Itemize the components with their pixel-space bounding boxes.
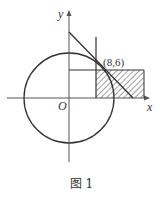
origin-label: O (58, 99, 67, 113)
y-axis-label: y (57, 7, 64, 21)
point-label: (8,6) (103, 56, 124, 69)
y-axis-arrow-icon (67, 10, 72, 16)
x-axis-label: x (146, 100, 153, 114)
figure-diagram: y x O (8,6) (0, 0, 163, 203)
figure-caption: 图 1 (0, 174, 163, 191)
